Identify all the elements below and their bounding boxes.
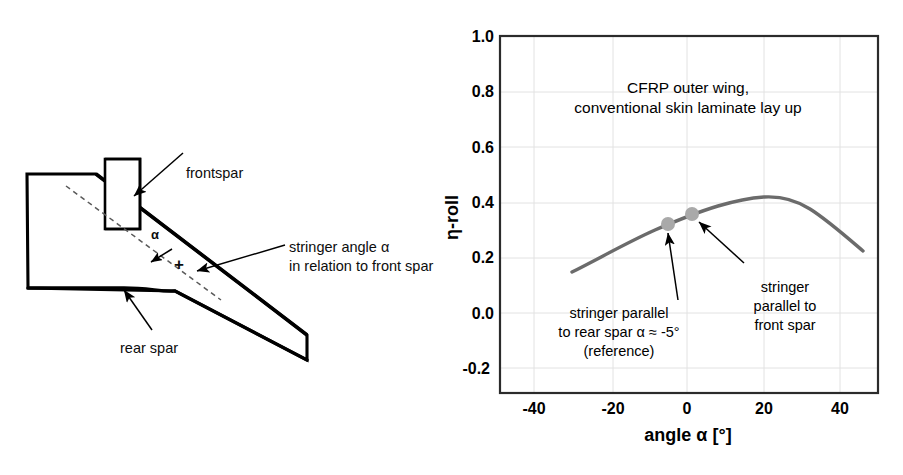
frontspar-label: frontspar bbox=[186, 165, 243, 182]
annotation-left-line3: (reference) bbox=[514, 342, 724, 360]
rear-spar-leader-arrow bbox=[124, 290, 152, 330]
ytick-0.2: 0.2 bbox=[448, 249, 494, 267]
rear-spar-label: rear spar bbox=[120, 340, 178, 357]
wing-planform-path bbox=[27, 174, 307, 360]
plot-title-line1: CFRP outer wing, bbox=[528, 78, 848, 98]
data-point-front-spar bbox=[685, 207, 699, 221]
xtick--40: -40 bbox=[509, 400, 559, 418]
page-caption-strip bbox=[0, 459, 903, 475]
stringer-angle-note-line1: stringer angle α bbox=[289, 239, 389, 256]
xtick-0: 0 bbox=[662, 400, 712, 418]
annotation-right-line2: parallel to bbox=[715, 297, 855, 315]
ytick--0.2: -0.2 bbox=[444, 360, 490, 378]
data-point-rear-spar-reference bbox=[661, 217, 675, 231]
y-axis-title: η-roll bbox=[442, 195, 463, 240]
alpha-symbol-label: α bbox=[151, 227, 159, 242]
wing-diagram-panel: + α frontspar rear spar stringer angle α… bbox=[0, 0, 430, 475]
ytick-0.8: 0.8 bbox=[448, 83, 494, 101]
xtick--20: -20 bbox=[588, 400, 638, 418]
ytick-1.0: 1.0 bbox=[448, 28, 494, 46]
annotation-right-line1: stringer bbox=[715, 278, 855, 296]
annotation-right-line3: front spar bbox=[715, 316, 855, 334]
wing-diagram-svg bbox=[0, 0, 430, 475]
chart-panel: 1.0 0.8 0.6 0.4 0.2 0.0 -0.2 η-roll -40 … bbox=[430, 0, 903, 475]
annotation-left-line1: stringer parallel bbox=[514, 304, 724, 322]
xtick-20: 20 bbox=[739, 400, 789, 418]
ytick-0.6: 0.6 bbox=[448, 139, 494, 157]
wing-outline bbox=[27, 174, 307, 360]
annotation-left-line2: to rear spar α ≈ -5° bbox=[514, 323, 724, 341]
stringer-angle-leader-arrow bbox=[197, 245, 285, 271]
x-axis-title: angle α [°] bbox=[478, 425, 898, 446]
xtick-40: 40 bbox=[815, 400, 865, 418]
stringer-angle-note-line2: in relation to front spar bbox=[289, 258, 433, 275]
frontspar-leader-arrow bbox=[134, 153, 183, 196]
figure-root: + α frontspar rear spar stringer angle α… bbox=[0, 0, 903, 475]
ytick-0.0: 0.0 bbox=[448, 305, 494, 323]
stringer-plus-marker: + bbox=[174, 255, 184, 275]
plot-title-line2: conventional skin laminate lay up bbox=[508, 98, 868, 118]
